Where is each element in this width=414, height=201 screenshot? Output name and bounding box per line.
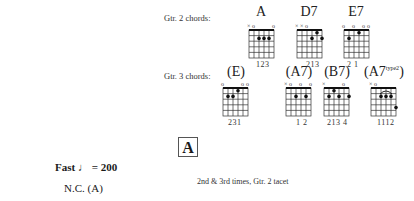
- no-chord-label: N.C. (A): [64, 182, 103, 194]
- svg-text:o: o: [342, 23, 345, 29]
- svg-text:o: o: [289, 81, 292, 87]
- fingering-a7: 1 2: [296, 118, 308, 127]
- chord-diagram-e7: o o o o: [342, 23, 370, 58]
- svg-text:o: o: [352, 23, 355, 29]
- chord-diagram-d7: × × o: [295, 23, 324, 58]
- svg-text:×: ×: [369, 81, 372, 87]
- svg-text:o: o: [374, 81, 377, 87]
- chord-diagram-a: × o o: [247, 23, 275, 58]
- fingering-e: 231: [228, 118, 242, 127]
- svg-text:o: o: [221, 81, 224, 87]
- svg-text:o: o: [305, 23, 308, 29]
- svg-text:o: o: [272, 23, 275, 29]
- tacet-instruction: 2nd & 3rd times, Gtr. 2 tacet: [197, 177, 289, 186]
- tempo-marking: Fast ♩ = 200: [55, 161, 117, 173]
- svg-text:o: o: [367, 23, 370, 29]
- fingering-b7: 213 4: [327, 118, 348, 127]
- svg-text:×: ×: [322, 81, 325, 87]
- rehearsal-mark-a: A: [178, 137, 198, 157]
- quarter-note-icon: ♩: [78, 161, 89, 173]
- svg-text:o: o: [362, 23, 365, 29]
- svg-text:o: o: [342, 81, 345, 87]
- svg-text:o: o: [299, 81, 302, 87]
- chord-diagram-b7: × o: [322, 81, 351, 116]
- svg-text:o: o: [246, 81, 249, 87]
- svg-text:o: o: [309, 81, 312, 87]
- svg-text:×: ×: [247, 23, 250, 29]
- chord-name-b7-paren: (B7): [317, 64, 357, 80]
- chord-name-a7-type2: (A7type2): [364, 64, 404, 80]
- chord-diagram-e: o o o: [221, 81, 249, 116]
- chord-name-a7-paren: (A7): [279, 64, 319, 80]
- gtr3-chords-label: Gtr. 3 chords:: [164, 71, 211, 81]
- svg-text:×: ×: [295, 23, 298, 29]
- chord-diagram-a7-type2: × o: [369, 81, 398, 116]
- svg-text:×: ×: [300, 23, 303, 29]
- fingering-a: 123: [256, 60, 270, 69]
- fingering-a7-type2: 1112: [377, 118, 394, 127]
- svg-text:o: o: [241, 81, 244, 87]
- svg-text:×: ×: [284, 81, 287, 87]
- svg-text:o: o: [252, 23, 255, 29]
- chord-name-e-paren: (E): [216, 64, 256, 80]
- chord-diagram-a7: × o o o: [284, 81, 312, 116]
